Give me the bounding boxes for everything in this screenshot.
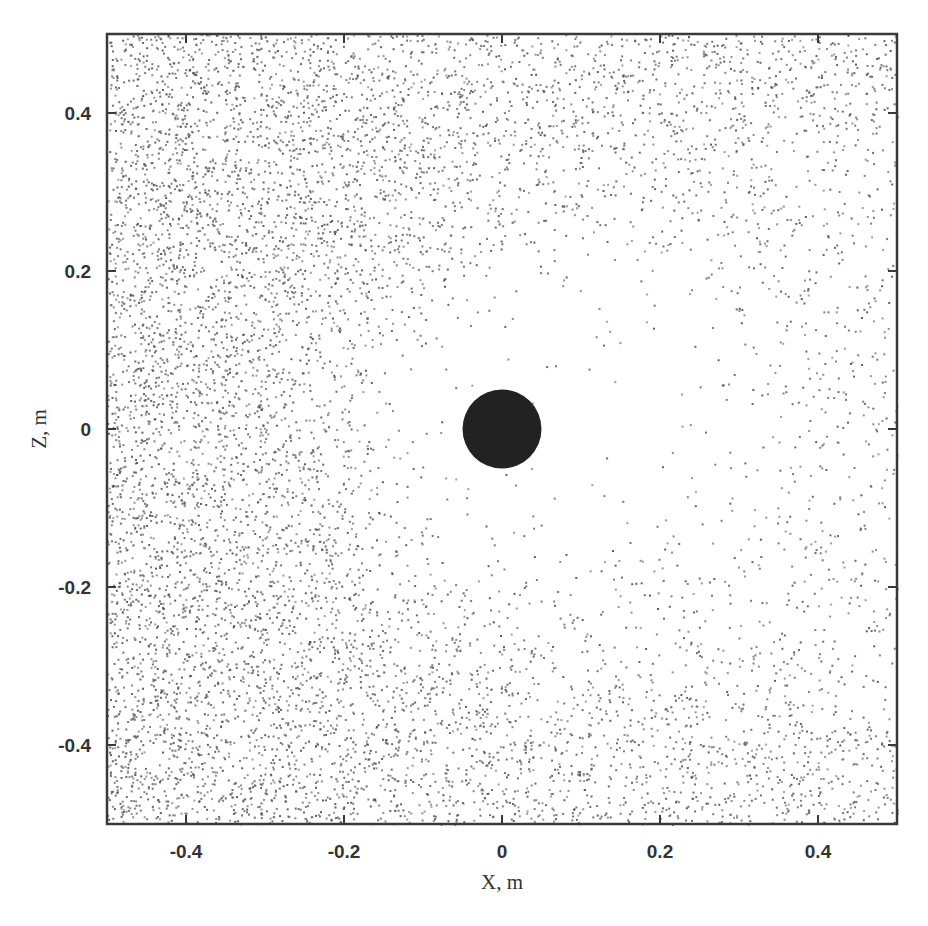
- x-tick-label: 0.4: [805, 841, 832, 862]
- y-axis-label: Z, m: [27, 409, 51, 449]
- scatter-chart: -0.4-0.200.20.4 -0.4-0.200.20.4 X, m Z, …: [0, 0, 928, 926]
- x-tick-label: -0.4: [170, 841, 203, 862]
- y-tick-label: -0.4: [58, 735, 91, 756]
- central-obstacle-circle: [463, 390, 542, 469]
- y-tick-label: 0.4: [65, 103, 92, 124]
- x-tick-labels: -0.4-0.200.20.4: [170, 841, 832, 862]
- y-tick-labels: -0.4-0.200.20.4: [58, 103, 91, 756]
- x-tick-label: 0: [497, 841, 508, 862]
- x-tick-label: 0.2: [647, 841, 673, 862]
- y-tick-label: 0.2: [65, 261, 91, 282]
- y-tick-label: 0: [80, 419, 91, 440]
- x-axis-label: X, m: [481, 870, 523, 894]
- x-tick-label: -0.2: [328, 841, 361, 862]
- y-tick-label: -0.2: [58, 577, 91, 598]
